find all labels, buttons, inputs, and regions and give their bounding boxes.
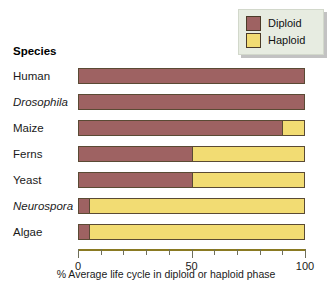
chart-row: Ferns xyxy=(0,144,332,164)
chart-row: Neurospora xyxy=(0,196,332,216)
species-label-drosophila: Drosophila xyxy=(13,92,75,112)
segment-diploid-algae xyxy=(79,225,90,239)
stacked-bar-algae xyxy=(78,224,305,240)
segment-haploid-maize xyxy=(283,121,304,135)
chart-row: Drosophila xyxy=(0,92,332,112)
species-label-algae: Algae xyxy=(13,222,75,242)
stacked-bar-ferns xyxy=(78,146,305,162)
segment-diploid-maize xyxy=(79,121,283,135)
segment-haploid-ferns xyxy=(193,147,305,161)
species-label-neurospora: Neurospora xyxy=(13,196,75,216)
x-axis-tick xyxy=(192,249,193,258)
species-label-human: Human xyxy=(13,66,75,86)
x-axis-tick xyxy=(237,249,238,255)
segment-haploid-neurospora xyxy=(90,199,304,213)
segment-haploid-yeast xyxy=(193,173,305,187)
segment-diploid-yeast xyxy=(79,173,193,187)
stacked-bar-neurospora xyxy=(78,198,305,214)
x-axis-tick xyxy=(282,249,283,255)
segment-diploid-human xyxy=(79,69,304,83)
x-axis-tick xyxy=(123,249,124,255)
chart-row: Human xyxy=(0,66,332,86)
species-label-yeast: Yeast xyxy=(13,170,75,190)
chart-row: Algae xyxy=(0,222,332,242)
x-axis-tick xyxy=(146,249,147,255)
segment-diploid-drosophila xyxy=(79,95,304,109)
x-axis-tick xyxy=(78,249,79,258)
species-label-maize: Maize xyxy=(13,118,75,138)
segment-diploid-ferns xyxy=(79,147,193,161)
stacked-bar-yeast xyxy=(78,172,305,188)
x-axis-tick xyxy=(169,249,170,255)
chart-row: Yeast xyxy=(0,170,332,190)
x-axis-title: % Average life cycle in diploid or haplo… xyxy=(0,268,332,280)
species-label-ferns: Ferns xyxy=(13,144,75,164)
x-axis-tick xyxy=(214,249,215,255)
x-axis-tick xyxy=(101,249,102,255)
plot-area: HumanDrosophilaMaizeFernsYeastNeurospora… xyxy=(0,0,332,291)
stacked-bar-maize xyxy=(78,120,305,136)
x-axis-tick xyxy=(260,249,261,255)
segment-diploid-neurospora xyxy=(79,199,90,213)
stacked-bar-drosophila xyxy=(78,94,305,110)
stacked-bar-human xyxy=(78,68,305,84)
chart-container: Diploid Haploid Species HumanDrosophilaM… xyxy=(0,0,332,291)
segment-haploid-algae xyxy=(90,225,304,239)
x-axis-tick xyxy=(305,249,306,258)
chart-row: Maize xyxy=(0,118,332,138)
